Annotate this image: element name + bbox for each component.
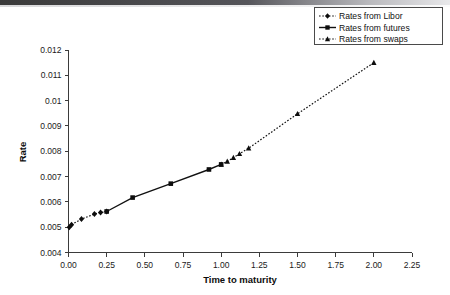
data-point-triangle bbox=[231, 155, 236, 160]
x-axis-title: Time to maturity bbox=[203, 274, 277, 285]
x-tick-label: 0.25 bbox=[98, 260, 115, 270]
x-tick-label: 2.25 bbox=[404, 260, 421, 270]
series-rates-from-libor bbox=[67, 208, 110, 230]
x-tick-label: 0.75 bbox=[175, 260, 192, 270]
axes bbox=[69, 50, 413, 253]
data-point-diamond bbox=[98, 210, 103, 216]
series-rates-from-swaps bbox=[218, 60, 376, 167]
legend: Rates from LiborRates from futuresRates … bbox=[315, 8, 443, 45]
x-tick-label: 1.50 bbox=[289, 260, 306, 270]
y-tick-label: 0.005 bbox=[40, 222, 62, 232]
x-tick-label: 0.50 bbox=[137, 260, 154, 270]
y-tick-label: 0.01 bbox=[45, 96, 62, 106]
series-line bbox=[107, 164, 222, 211]
series-layer bbox=[67, 60, 377, 230]
y-tick-label: 0.007 bbox=[40, 172, 62, 182]
y-tick-label: 0.009 bbox=[40, 121, 62, 131]
y-tick-label: 0.008 bbox=[40, 146, 62, 156]
rate-curve-chart: 0.0040.0050.0060.0070.0080.0090.010.0110… bbox=[0, 0, 450, 295]
series-rates-from-futures bbox=[104, 162, 223, 214]
x-tick-label: 2.00 bbox=[366, 260, 383, 270]
data-point-square bbox=[130, 195, 135, 200]
data-point-triangle bbox=[225, 158, 230, 163]
data-point-triangle bbox=[371, 60, 376, 65]
data-point-square bbox=[207, 167, 212, 172]
data-point-square bbox=[168, 181, 173, 186]
y-axis-ticks: 0.0040.0050.0060.0070.0080.0090.010.0110… bbox=[40, 45, 68, 258]
data-point-triangle bbox=[295, 111, 300, 116]
x-tick-label: 1.00 bbox=[213, 260, 230, 270]
data-point-triangle bbox=[237, 151, 242, 156]
legend-items: Rates from LiborRates from futuresRates … bbox=[319, 11, 410, 44]
x-tick-label: 1.75 bbox=[327, 260, 344, 270]
y-tick-label: 0.012 bbox=[40, 45, 62, 55]
x-tick-label: 0.00 bbox=[60, 260, 77, 270]
data-point-triangle bbox=[246, 145, 251, 150]
chart-container: 0.0040.0050.0060.0070.0080.0090.010.0110… bbox=[0, 0, 450, 295]
y-tick-label: 0.011 bbox=[41, 70, 62, 80]
legend-label: Rates from swaps bbox=[339, 34, 408, 44]
data-point-square bbox=[104, 209, 109, 214]
y-tick-label: 0.004 bbox=[40, 248, 62, 258]
data-point-square bbox=[325, 25, 329, 29]
data-point-diamond bbox=[79, 216, 84, 222]
x-tick-label: 1.25 bbox=[251, 260, 268, 270]
y-axis-title: Rate bbox=[17, 142, 28, 163]
x-axis-ticks: 0.000.250.500.751.001.251.501.752.002.25 bbox=[60, 253, 420, 270]
y-tick-label: 0.006 bbox=[40, 197, 62, 207]
data-point-diamond bbox=[92, 211, 97, 217]
legend-label: Rates from futures bbox=[339, 23, 410, 33]
legend-label: Rates from Libor bbox=[339, 11, 403, 21]
